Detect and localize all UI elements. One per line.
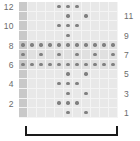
grid-cell-dot[interactable] <box>64 12 73 22</box>
grid-cell-empty[interactable] <box>82 50 91 60</box>
grid-cell-empty[interactable] <box>19 21 28 31</box>
grid-cell-empty[interactable] <box>46 99 55 109</box>
grid-cell-empty[interactable] <box>46 2 55 12</box>
grid-cell-dot[interactable] <box>82 41 91 51</box>
grid-cell-empty[interactable] <box>19 12 28 22</box>
grid-cell-dot[interactable] <box>19 41 28 51</box>
grid-cell-empty[interactable] <box>109 2 118 12</box>
grid-cell-empty[interactable] <box>28 70 37 80</box>
grid-cell-dot[interactable] <box>64 21 73 31</box>
grid-cell-empty[interactable] <box>73 108 82 118</box>
grid-cell-empty[interactable] <box>91 31 100 41</box>
grid-cell-empty[interactable] <box>100 12 109 22</box>
grid-cell-dot[interactable] <box>109 41 118 51</box>
grid-cell-empty[interactable] <box>91 99 100 109</box>
grid-cell-empty[interactable] <box>82 21 91 31</box>
grid-cell-empty[interactable] <box>82 99 91 109</box>
grid-cell-dot[interactable] <box>64 60 73 70</box>
grid-cell-empty[interactable] <box>91 2 100 12</box>
grid-cell-dot[interactable] <box>82 70 91 80</box>
grid-cell-empty[interactable] <box>73 31 82 41</box>
grid-cell-empty[interactable] <box>46 50 55 60</box>
grid-cell-empty[interactable] <box>28 108 37 118</box>
grid-cell-empty[interactable] <box>109 79 118 89</box>
grid-cell-dot[interactable] <box>55 79 64 89</box>
grid-cell-empty[interactable] <box>55 108 64 118</box>
grid-cell-empty[interactable] <box>73 89 82 99</box>
grid-cell-dot[interactable] <box>55 41 64 51</box>
grid-cell-dot[interactable] <box>73 21 82 31</box>
grid-cell-empty[interactable] <box>46 108 55 118</box>
grid-cell-empty[interactable] <box>28 21 37 31</box>
grid-cell-empty[interactable] <box>91 79 100 89</box>
grid-cell-empty[interactable] <box>100 108 109 118</box>
grid-cell-empty[interactable] <box>109 89 118 99</box>
grid-cell-empty[interactable] <box>109 21 118 31</box>
grid-cell-empty[interactable] <box>82 79 91 89</box>
dot-grid[interactable] <box>19 2 118 118</box>
grid-cell-dot[interactable] <box>19 60 28 70</box>
grid-cell-dot[interactable] <box>82 89 91 99</box>
grid-cell-empty[interactable] <box>28 12 37 22</box>
grid-cell-dot[interactable] <box>37 41 46 51</box>
grid-cell-empty[interactable] <box>100 89 109 99</box>
grid-cell-empty[interactable] <box>37 89 46 99</box>
grid-cell-empty[interactable] <box>37 12 46 22</box>
grid-cell-empty[interactable] <box>100 21 109 31</box>
grid-cell-dot[interactable] <box>73 41 82 51</box>
grid-cell-empty[interactable] <box>37 2 46 12</box>
grid-cell-dot[interactable] <box>73 50 82 60</box>
grid-cell-empty[interactable] <box>91 21 100 31</box>
grid-cell-empty[interactable] <box>73 12 82 22</box>
grid-cell-dot[interactable] <box>109 60 118 70</box>
grid-cell-empty[interactable] <box>19 79 28 89</box>
grid-cell-dot[interactable] <box>28 41 37 51</box>
grid-cell-dot[interactable] <box>55 60 64 70</box>
grid-cell-empty[interactable] <box>82 31 91 41</box>
grid-cell-dot[interactable] <box>82 12 91 22</box>
grid-cell-empty[interactable] <box>100 31 109 41</box>
grid-cell-dot[interactable] <box>19 50 28 60</box>
grid-cell-dot[interactable] <box>64 70 73 80</box>
grid-cell-dot[interactable] <box>100 41 109 51</box>
grid-cell-dot[interactable] <box>64 108 73 118</box>
grid-cell-empty[interactable] <box>109 12 118 22</box>
grid-cell-dot[interactable] <box>28 60 37 70</box>
grid-cell-dot[interactable] <box>55 21 64 31</box>
grid-cell-empty[interactable] <box>109 99 118 109</box>
grid-cell-empty[interactable] <box>37 99 46 109</box>
grid-cell-empty[interactable] <box>46 31 55 41</box>
grid-cell-empty[interactable] <box>46 12 55 22</box>
grid-cell-dot[interactable] <box>64 89 73 99</box>
grid-cell-dot[interactable] <box>64 31 73 41</box>
grid-cell-dot[interactable] <box>46 41 55 51</box>
grid-cell-empty[interactable] <box>37 108 46 118</box>
grid-cell-empty[interactable] <box>109 108 118 118</box>
grid-cell-empty[interactable] <box>28 79 37 89</box>
grid-cell-empty[interactable] <box>46 89 55 99</box>
grid-cell-dot[interactable] <box>109 50 118 60</box>
grid-cell-dot[interactable] <box>82 60 91 70</box>
grid-cell-empty[interactable] <box>100 79 109 89</box>
grid-cell-empty[interactable] <box>100 50 109 60</box>
grid-cell-empty[interactable] <box>73 70 82 80</box>
grid-cell-dot[interactable] <box>64 79 73 89</box>
grid-cell-empty[interactable] <box>19 2 28 12</box>
grid-cell-empty[interactable] <box>19 108 28 118</box>
grid-cell-empty[interactable] <box>64 50 73 60</box>
grid-cell-empty[interactable] <box>55 70 64 80</box>
grid-cell-empty[interactable] <box>55 89 64 99</box>
grid-cell-empty[interactable] <box>37 79 46 89</box>
grid-cell-dot[interactable] <box>64 2 73 12</box>
grid-cell-dot[interactable] <box>55 2 64 12</box>
grid-cell-empty[interactable] <box>19 99 28 109</box>
grid-cell-empty[interactable] <box>19 31 28 41</box>
grid-cell-empty[interactable] <box>19 89 28 99</box>
grid-cell-empty[interactable] <box>100 70 109 80</box>
grid-cell-empty[interactable] <box>100 2 109 12</box>
grid-cell-empty[interactable] <box>82 2 91 12</box>
grid-cell-dot[interactable] <box>91 50 100 60</box>
grid-cell-empty[interactable] <box>19 70 28 80</box>
grid-cell-dot[interactable] <box>73 60 82 70</box>
grid-cell-dot[interactable] <box>37 60 46 70</box>
